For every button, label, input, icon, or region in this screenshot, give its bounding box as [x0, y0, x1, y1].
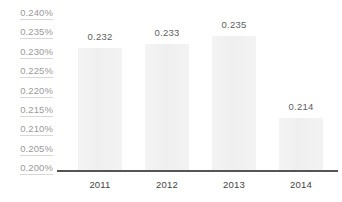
y-tick-label: 0.230% — [20, 46, 53, 59]
y-tick-8: 0.200% — [0, 162, 53, 175]
y-tick-label: 0.205% — [20, 143, 53, 156]
y-tick-label: 0.215% — [20, 104, 53, 117]
y-tick-label: 0.240% — [20, 7, 53, 20]
bar-value-2014: 0.214 — [269, 101, 333, 112]
y-tick-2: 0.230% — [0, 46, 53, 59]
x-tick-label-2011: 2011 — [68, 179, 132, 190]
y-tick-3: 0.225% — [0, 65, 53, 78]
bar-chart: 0.240% 0.235% 0.230% 0.225% 0.220% 0.215… — [0, 0, 342, 202]
y-tick-label: 0.210% — [20, 123, 53, 136]
bar-2011[interactable] — [78, 48, 122, 172]
x-tick-label-2012: 2012 — [135, 179, 199, 190]
x-axis-line — [57, 170, 338, 172]
y-tick-0: 0.240% — [0, 7, 53, 20]
y-tick-4: 0.220% — [0, 85, 53, 98]
y-tick-label: 0.220% — [20, 85, 53, 98]
y-tick-label: 0.235% — [20, 26, 53, 39]
bar-2013[interactable] — [212, 36, 256, 172]
y-tick-7: 0.205% — [0, 143, 53, 156]
y-tick-label: 0.225% — [20, 65, 53, 78]
bar-2014[interactable] — [279, 118, 323, 172]
y-tick-1: 0.235% — [0, 26, 53, 39]
x-tick-label-2014: 2014 — [269, 179, 333, 190]
y-axis: 0.240% 0.235% 0.230% 0.225% 0.220% 0.215… — [0, 0, 57, 202]
bar-value-2011: 0.232 — [68, 31, 132, 42]
y-tick-6: 0.210% — [0, 123, 53, 136]
bar-2012[interactable] — [145, 44, 189, 172]
y-tick-label: 0.200% — [20, 162, 53, 175]
plot-area: 0.232 0.233 0.235 0.214 2011 2012 2013 2… — [57, 0, 342, 202]
x-tick-label-2013: 2013 — [202, 179, 266, 190]
y-tick-5: 0.215% — [0, 104, 53, 117]
bar-value-2013: 0.235 — [202, 19, 266, 30]
bar-value-2012: 0.233 — [135, 27, 199, 38]
